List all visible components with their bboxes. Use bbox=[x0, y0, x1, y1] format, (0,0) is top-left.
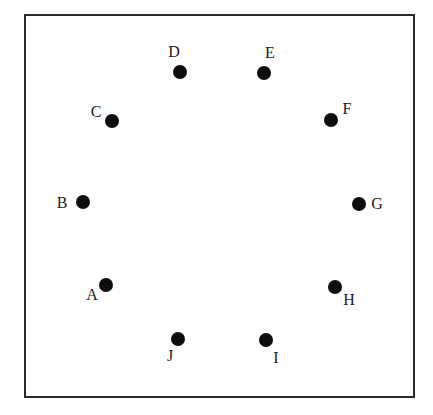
point-j-label: J bbox=[167, 348, 173, 364]
point-c-label: C bbox=[91, 104, 102, 120]
point-c-dot bbox=[105, 114, 119, 128]
point-e-label: E bbox=[265, 45, 275, 61]
point-d-label: D bbox=[168, 44, 180, 60]
point-h-dot bbox=[328, 280, 342, 294]
point-a-dot bbox=[99, 278, 113, 292]
diagram-canvas: A B C D E F G H I J bbox=[0, 0, 433, 415]
point-j-dot bbox=[171, 332, 185, 346]
point-e-dot bbox=[257, 66, 271, 80]
point-f-dot bbox=[324, 113, 338, 127]
point-d-dot bbox=[173, 65, 187, 79]
point-a-label: A bbox=[86, 287, 98, 303]
point-b-label: B bbox=[57, 195, 68, 211]
point-f-label: F bbox=[343, 101, 352, 117]
point-g-label: G bbox=[371, 196, 383, 212]
point-h-label: H bbox=[343, 292, 355, 308]
point-b-dot bbox=[76, 195, 90, 209]
point-g-dot bbox=[352, 197, 366, 211]
point-i-dot bbox=[259, 333, 273, 347]
point-i-label: I bbox=[273, 350, 278, 366]
